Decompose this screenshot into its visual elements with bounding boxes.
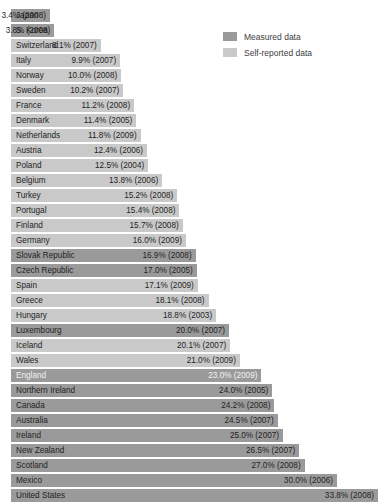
bar-measured: New Zealand26.5% (2007) — [11, 444, 299, 457]
bar-value-label: 25.0% (2007) — [230, 429, 279, 442]
bar-value-label: 8.1% (2007) — [52, 39, 97, 52]
bar-row: Slovak Republic16.9% (2008) — [0, 249, 389, 262]
bar-selfreported: Germany16.0% (2009) — [11, 234, 186, 247]
bar-value-label: 27.0% (2008) — [251, 459, 300, 472]
bar-row: Australia24.5% (2007) — [0, 414, 389, 427]
bar-row: Belgium13.8% (2006) — [0, 174, 389, 187]
bar-row: Greece18.1% (2008) — [0, 294, 389, 307]
bar-row: Japan3.4% (2008) — [0, 9, 389, 22]
bar-value-label: 26.5% (2007) — [246, 444, 295, 457]
bar-list: Japan3.4% (2008)S. Korea3.8% (2008)Switz… — [0, 9, 389, 504]
bar-row: Netherlands11.8% (2009) — [0, 129, 389, 142]
bar-measured: Australia24.5% (2007) — [11, 414, 278, 427]
bar-country-label: France — [16, 99, 41, 112]
bar-country-label: Canada — [16, 399, 45, 412]
bar-row: Portugal15.4% (2008) — [0, 204, 389, 217]
bar-value-label: 23.0% (2009) — [208, 369, 257, 382]
bar-country-label: Germany — [16, 234, 50, 247]
bar-row: Iceland20.1% (2007) — [0, 339, 389, 352]
bar-selfreported: Norway10.0% (2008) — [11, 69, 121, 82]
bar-value-label: 3.4% (2008) — [1, 9, 46, 22]
bar-row: Hungary18.8% (2003) — [0, 309, 389, 322]
bar-measured: Czech Republic17.0% (2005) — [11, 264, 197, 277]
bar-row: Denmark11.4% (2005) — [0, 114, 389, 127]
bar-selfreported: Iceland20.1% (2007) — [11, 339, 230, 352]
bar-country-label: Scotland — [16, 459, 48, 472]
bar-selfreported: Spain17.1% (2009) — [11, 279, 198, 292]
bar-value-label: 30.0% (2006) — [284, 474, 333, 487]
bar-row: Switzerland8.1% (2007) — [0, 39, 389, 52]
bar-row: S. Korea3.8% (2008) — [0, 24, 389, 37]
bar-measured: Ireland25.0% (2007) — [11, 429, 283, 442]
bar-value-label: 18.1% (2008) — [155, 294, 204, 307]
bar-measured: S. Korea3.8% (2008) — [11, 24, 54, 37]
bar-country-label: Finland — [16, 219, 43, 232]
bar-country-label: England — [16, 369, 46, 382]
bar-row: Scotland27.0% (2008) — [0, 459, 389, 472]
bar-country-label: Australia — [16, 414, 48, 427]
bar-measured: Northern Ireland24.0% (2005) — [11, 384, 272, 397]
bar-selfreported: Italy9.9% (2007) — [11, 54, 120, 67]
bar-row: Poland12.5% (2004) — [0, 159, 389, 172]
bar-country-label: Ireland — [16, 429, 41, 442]
bar-value-label: 11.4% (2005) — [84, 114, 133, 127]
bar-country-label: Portugal — [16, 204, 47, 217]
bar-measured: Japan3.4% (2008) — [11, 9, 50, 22]
bar-country-label: Netherlands — [16, 129, 60, 142]
bar-country-label: Hungary — [16, 309, 47, 322]
bar-selfreported: Turkey15.2% (2008) — [11, 189, 177, 202]
bar-country-label: United States — [16, 489, 65, 502]
bar-value-label: 15.4% (2008) — [126, 204, 175, 217]
bar-row: England23.0% (2009) — [0, 369, 389, 382]
bar-value-label: 24.5% (2007) — [224, 414, 273, 427]
bar-country-label: Denmark — [16, 114, 49, 127]
bar-country-label: Luxembourg — [16, 324, 62, 337]
bar-selfreported: Poland12.5% (2004) — [11, 159, 148, 172]
bar-row: United States33.8% (2008) — [0, 489, 389, 502]
bar-row: Ireland25.0% (2007) — [0, 429, 389, 442]
bar-value-label: 33.8% (2008) — [325, 489, 374, 502]
bar-measured: United States33.8% (2008) — [11, 489, 378, 502]
bar-value-label: 18.8% (2003) — [163, 309, 212, 322]
bar-selfreported: Switzerland8.1% (2007) — [11, 39, 101, 52]
bar-row: Czech Republic17.0% (2005) — [0, 264, 389, 277]
bar-country-label: Italy — [16, 54, 31, 67]
bar-selfreported: Portugal15.4% (2008) — [11, 204, 179, 217]
bar-value-label: 9.9% (2007) — [72, 54, 117, 67]
bar-row: Wales21.0% (2009) — [0, 354, 389, 367]
bar-measured: Canada24.2% (2008) — [11, 399, 274, 412]
bar-value-label: 12.5% (2004) — [95, 159, 144, 172]
bar-row: Sweden10.2% (2007) — [0, 84, 389, 97]
bar-country-label: Mexico — [16, 474, 42, 487]
bar-value-label: 21.0% (2009) — [187, 354, 236, 367]
bar-country-label: Greece — [16, 294, 43, 307]
bar-value-label: 17.0% (2005) — [144, 264, 193, 277]
bar-country-label: Czech Republic — [16, 264, 73, 277]
bar-row: Mexico30.0% (2006) — [0, 474, 389, 487]
bar-selfreported: Sweden10.2% (2007) — [11, 84, 123, 97]
bar-country-label: Sweden — [16, 84, 46, 97]
bar-value-label: 24.0% (2005) — [219, 384, 268, 397]
bar-value-label: 15.2% (2008) — [124, 189, 173, 202]
bar-value-label: 24.2% (2008) — [221, 399, 270, 412]
bar-selfreported: Denmark11.4% (2005) — [11, 114, 136, 127]
bar-row: New Zealand26.5% (2007) — [0, 444, 389, 457]
bar-selfreported: France11.2% (2008) — [11, 99, 134, 112]
bar-selfreported: Netherlands11.8% (2009) — [11, 129, 141, 142]
bar-selfreported: Finland15.7% (2008) — [11, 219, 183, 232]
bar-value-label: 12.4% (2006) — [94, 144, 143, 157]
bar-value-label: 20.0% (2007) — [176, 324, 225, 337]
bar-selfreported: Hungary18.8% (2003) — [11, 309, 216, 322]
bar-country-label: Slovak Republic — [16, 249, 75, 262]
bar-row: Norway10.0% (2008) — [0, 69, 389, 82]
bar-country-label: Spain — [16, 279, 37, 292]
bar-row: Northern Ireland24.0% (2005) — [0, 384, 389, 397]
bar-country-label: Norway — [16, 69, 44, 82]
bar-selfreported: Austria12.4% (2006) — [11, 144, 147, 157]
bar-value-label: 3.8% (2008) — [6, 24, 51, 37]
bar-country-label: New Zealand — [16, 444, 64, 457]
bar-measured: Mexico30.0% (2006) — [11, 474, 337, 487]
bar-country-label: Wales — [16, 354, 38, 367]
bar-measured: England23.0% (2009) — [11, 369, 261, 382]
bar-country-label: Iceland — [16, 339, 42, 352]
